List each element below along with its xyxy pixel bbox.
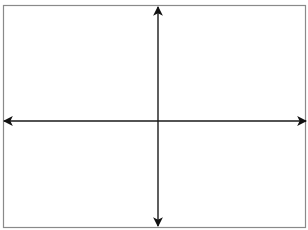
axes-diagram [0, 0, 308, 230]
coordinate-plane [0, 0, 308, 230]
plot-frame [4, 6, 306, 228]
